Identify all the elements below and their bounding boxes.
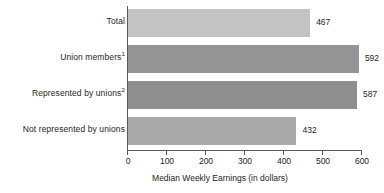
x-axis-tick — [322, 151, 323, 155]
category-label-not-represented-by-unions: Not represented by unions — [23, 125, 125, 134]
x-axis-title: Median Weekly Earnings (in dollars) — [0, 174, 384, 183]
category-label-total: Total — [107, 17, 125, 26]
category-label-text: Not represented by unions — [23, 124, 125, 134]
category-label-text: Represented by unions — [32, 88, 122, 98]
bar-chart: Total Union members1 Represented by unio… — [0, 0, 384, 193]
x-axis-tick — [205, 151, 206, 155]
x-axis-tick — [283, 151, 284, 155]
x-axis-tick — [244, 151, 245, 155]
x-axis-tick-label: 100 — [160, 157, 174, 166]
x-axis-tick-label: 400 — [277, 157, 291, 166]
bar-represented-by-unions — [128, 81, 357, 109]
x-axis-tick-label: 200 — [199, 157, 213, 166]
category-label-text: Total — [107, 16, 125, 26]
x-axis-tick-label: 500 — [316, 157, 330, 166]
footnote-marker: 2 — [121, 86, 125, 93]
footnote-marker: 1 — [121, 50, 125, 57]
x-axis-tick — [361, 151, 362, 155]
bar-not-represented-by-unions — [128, 117, 296, 145]
value-label-not-represented-by-unions: 432 — [302, 126, 316, 135]
x-axis-tick-label: 300 — [238, 157, 252, 166]
bar-total — [128, 9, 310, 37]
value-label-union-members: 592 — [365, 54, 379, 63]
y-axis-line — [127, 6, 128, 151]
x-axis-tick-label: 600 — [355, 157, 369, 166]
category-label-union-members: Union members1 — [60, 53, 125, 62]
x-axis-tick — [127, 151, 128, 155]
plot-area: 467 592 587 432 — [128, 7, 362, 150]
category-label-represented-by-unions: Represented by unions2 — [32, 89, 125, 98]
x-axis-tick — [166, 151, 167, 155]
category-label-text: Union members — [60, 52, 121, 62]
bar-union-members — [128, 45, 359, 73]
value-label-total: 467 — [316, 18, 330, 27]
x-axis-tick-label: 0 — [126, 157, 131, 166]
value-label-represented-by-unions: 587 — [363, 90, 377, 99]
